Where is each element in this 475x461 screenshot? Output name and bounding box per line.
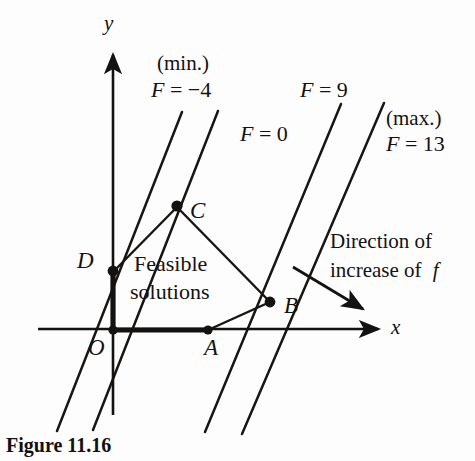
contour-tag-max: (max.) — [386, 107, 441, 131]
contour-label-F-0: F = 0 — [240, 122, 288, 147]
x-axis-label: x — [391, 316, 400, 340]
vertex-dot-O — [108, 325, 117, 334]
vertex-dot-D — [108, 266, 119, 277]
contour-label-F-9: F = 9 — [300, 78, 348, 103]
vertex-dot-B — [265, 297, 276, 308]
contour-label-F-13-value: = 13 — [405, 131, 445, 156]
objective-function-symbol: f — [433, 258, 439, 282]
edge-A-B — [208, 302, 270, 330]
feasible-solutions-label-line2: solutions — [130, 280, 209, 305]
direction-label-line2: increase of f — [330, 259, 439, 283]
contour-label-F-9-value: = 9 — [319, 77, 348, 102]
contour-label-F-minus-4-value: = −4 — [170, 77, 211, 102]
contour-label-F-0-value: = 0 — [259, 121, 288, 146]
contour-label-F-13-symbol: F — [386, 131, 399, 156]
direction-label-line2-text: increase of — [330, 258, 422, 282]
figure-11-16: y x D C B A O (min.) F = −4 F = 0 F = 9 … — [0, 0, 475, 461]
contour-line-F-9 — [205, 104, 341, 432]
vertex-label-A: A — [204, 335, 218, 361]
contour-label-F-minus-4: F = −4 — [151, 78, 211, 103]
contour-label-F-minus-4-symbol: F — [151, 77, 164, 102]
direction-label-line1: Direction of — [330, 230, 432, 254]
contour-label-F-13: F = 13 — [386, 132, 445, 157]
vertex-label-C: C — [190, 198, 205, 224]
y-axis-label: y — [104, 12, 113, 36]
vertex-label-D: D — [77, 248, 94, 274]
contour-label-F-0-symbol: F — [240, 121, 253, 146]
feasible-solutions-label-line1: Feasible — [134, 252, 207, 277]
contour-label-F-9-symbol: F — [300, 77, 313, 102]
vertex-label-O: O — [88, 335, 105, 361]
contour-tag-min: (min.) — [157, 52, 209, 76]
figure-caption: Figure 11.16 — [6, 434, 111, 457]
vertex-label-B: B — [284, 293, 298, 319]
vertex-dot-A — [203, 325, 212, 334]
vertex-dot-C — [171, 200, 182, 211]
